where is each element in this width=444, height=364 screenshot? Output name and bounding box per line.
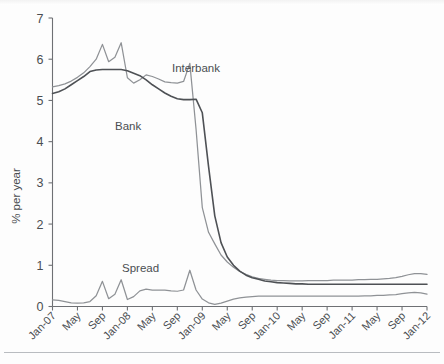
series-label-interbank: Interbank — [172, 62, 220, 74]
y-tick-label-group: 01234567 — [37, 12, 44, 315]
y-tick-label: 5 — [37, 94, 44, 108]
x-tick-label: May — [359, 309, 383, 333]
x-tick-label: May — [135, 309, 159, 333]
y-tick-label: 7 — [37, 12, 44, 26]
bottom-divider-rule — [4, 352, 440, 353]
line-chart: 01234567 Jan-07MaySepJan-08MaySepJan-09M… — [0, 0, 444, 364]
x-tick-group — [53, 307, 428, 311]
series-label-bank: Bank — [115, 120, 141, 132]
series-line-interbank — [53, 43, 428, 281]
x-tick-label: Jan-07 — [26, 309, 58, 341]
series-line-bank — [53, 70, 428, 285]
x-tick-label: May — [210, 309, 234, 333]
series-line-spread — [53, 270, 428, 304]
x-tick-label-group: Jan-07MaySepJan-08MaySepJan-09MaySepJan-… — [26, 309, 433, 342]
series-label-spread: Spread — [122, 262, 159, 274]
y-tick-label: 6 — [37, 53, 44, 67]
x-tick-label: May — [60, 309, 84, 333]
x-tick-label: Jan-09 — [175, 309, 207, 341]
x-tick-label: Jan-11 — [326, 309, 358, 341]
y-tick-label: 1 — [37, 259, 44, 273]
x-tick-label: May — [284, 309, 308, 333]
y-axis-title: % per year — [10, 168, 22, 224]
x-tick-label: Jan-12 — [400, 309, 432, 341]
y-tick-group — [49, 18, 53, 307]
y-tick-label: 0 — [37, 300, 44, 314]
y-tick-label: 4 — [37, 135, 44, 149]
y-tick-label: 3 — [37, 176, 44, 190]
series-path-group — [53, 43, 428, 305]
x-tick-label: Jan-08 — [101, 309, 133, 341]
x-tick-label: Jan-10 — [250, 309, 282, 341]
y-tick-label: 2 — [37, 218, 44, 232]
chart-figure: 01234567 Jan-07MaySepJan-08MaySepJan-09M… — [0, 0, 444, 364]
